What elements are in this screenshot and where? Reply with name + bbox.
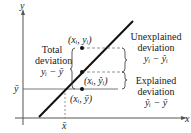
total-line2: deviation [35,55,69,66]
unexplained-line2: deviation [122,42,190,53]
explained-brace [122,72,127,89]
explained-line2: deviation [128,86,184,97]
predicted-point-label: (xᵢ, ŷᵢ) [84,75,108,86]
xbar-label: x̄ [62,120,66,131]
predicted-point [80,70,84,74]
total-deviation-label: Total deviation yᵢ − ȳ [35,44,69,77]
x-axis-label: x [185,113,189,124]
deviation-diagram [0,0,191,133]
unexplained-line1: Unexplained [122,31,190,42]
observed-point [80,46,84,50]
mean-point [80,87,84,91]
explained-deviation-label: Explained deviation ŷᵢ − ȳ [128,75,184,108]
unexplained-deviation-label: Unexplained deviation yᵢ − ŷᵢ [122,31,190,64]
ybar-label: ȳ [14,83,18,94]
total-line1: Total [35,44,69,55]
explained-line1: Explained [128,75,184,86]
observed-point-label: (xᵢ, yᵢ) [68,34,92,45]
explained-formula: ŷᵢ − ȳ [128,97,184,108]
y-axis-label: y [20,0,24,11]
unexplained-formula: yᵢ − ŷᵢ [122,53,190,64]
total-formula: yᵢ − ȳ [35,66,69,77]
mean-point-label: (xᵢ, ȳ) [70,93,92,104]
